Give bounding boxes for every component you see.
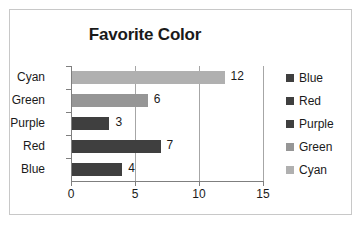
x-axis-tick-label: 10 bbox=[186, 187, 212, 201]
y-tick bbox=[66, 158, 71, 159]
plot-area: 473612 bbox=[71, 66, 263, 181]
bar-purple[interactable] bbox=[71, 117, 109, 130]
legend-swatch-icon bbox=[286, 166, 294, 174]
bar-row: 3 bbox=[71, 112, 263, 135]
legend-item-blue[interactable]: Blue bbox=[286, 66, 352, 89]
bar-row: 4 bbox=[71, 158, 263, 181]
bar-blue[interactable] bbox=[71, 163, 122, 176]
legend-swatch-icon bbox=[286, 74, 294, 82]
bar-value-label: 6 bbox=[154, 92, 161, 106]
bar-cyan[interactable] bbox=[71, 71, 225, 84]
legend-item-red[interactable]: Red bbox=[286, 89, 352, 112]
legend-item-purple[interactable]: Purple bbox=[286, 112, 352, 135]
x-axis-tick-label: 0 bbox=[58, 187, 84, 201]
y-axis-category-label: Blue bbox=[0, 162, 45, 176]
legend-label: Blue bbox=[299, 71, 323, 85]
x-tick-5 bbox=[135, 182, 136, 186]
x-axis-tick-label: 5 bbox=[122, 187, 148, 201]
legend-swatch-icon bbox=[286, 97, 294, 105]
legend-label: Purple bbox=[299, 117, 334, 131]
bar-value-label: 12 bbox=[231, 69, 244, 83]
x-axis-tick-label: 15 bbox=[250, 187, 276, 201]
legend-label: Cyan bbox=[299, 163, 327, 177]
bar-value-label: 3 bbox=[115, 115, 122, 129]
bar-row: 7 bbox=[71, 135, 263, 158]
legend-item-cyan[interactable]: Cyan bbox=[286, 158, 352, 181]
x-tick-0 bbox=[71, 182, 72, 186]
bar-green[interactable] bbox=[71, 94, 148, 107]
legend-item-green[interactable]: Green bbox=[286, 135, 352, 158]
y-axis-category-label: Cyan bbox=[0, 70, 45, 84]
bar-red[interactable] bbox=[71, 140, 161, 153]
legend-swatch-icon bbox=[286, 143, 294, 151]
y-tick bbox=[66, 135, 71, 136]
y-tick bbox=[66, 89, 71, 90]
chart-container: Favorite Color 473612 BlueRedPurpleGreen… bbox=[9, 9, 352, 215]
x-tick-10 bbox=[199, 182, 200, 186]
legend-swatch-icon bbox=[286, 120, 294, 128]
bar-row: 12 bbox=[71, 66, 263, 89]
gridline-x-15 bbox=[263, 66, 264, 181]
bar-value-label: 7 bbox=[167, 138, 174, 152]
y-tick bbox=[66, 66, 71, 67]
bar-value-label: 4 bbox=[128, 161, 135, 175]
y-tick bbox=[66, 112, 71, 113]
y-axis-category-label: Red bbox=[0, 139, 45, 153]
x-tick-15 bbox=[263, 182, 264, 186]
bar-row: 6 bbox=[71, 89, 263, 112]
y-axis-category-label: Purple bbox=[0, 116, 45, 130]
legend-label: Green bbox=[299, 140, 332, 154]
chart-legend: BlueRedPurpleGreenCyan bbox=[286, 66, 352, 181]
x-axis-line bbox=[71, 181, 264, 182]
y-axis-line bbox=[71, 66, 72, 181]
legend-label: Red bbox=[299, 94, 321, 108]
y-axis-category-label: Green bbox=[0, 93, 45, 107]
chart-title: Favorite Color bbox=[10, 25, 280, 45]
